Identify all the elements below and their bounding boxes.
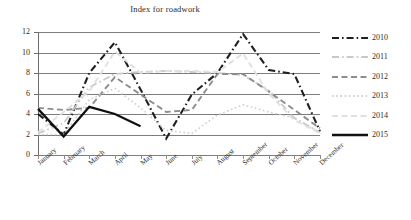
legend-label: 2010 [369,34,388,42]
legend-swatch-2010-icon [331,33,369,43]
legend-swatch-2015-icon [331,130,369,140]
legend-swatch-2012-icon [331,72,369,82]
legend-item-2013[interactable]: 2013 [331,87,409,107]
legend-item-2010[interactable]: 2010 [331,28,409,48]
series-layer [38,32,320,155]
gridline-0 [38,155,320,156]
legend-swatch-2014-icon [331,111,369,121]
legend-item-2014[interactable]: 2014 [331,106,409,126]
y-tick-mark-0 [34,155,38,156]
line-chart: Index for roadwork 024681012 JanuaryFebr… [0,0,411,220]
legend-item-2015[interactable]: 2015 [331,126,409,146]
series-line-2010 [38,34,320,139]
legend-label: 2011 [369,53,388,61]
legend-item-2011[interactable]: 2011 [331,48,409,68]
legend-item-2012[interactable]: 2012 [331,67,409,87]
y-tick-label: 6 [0,90,30,98]
x-tick-mark [320,155,321,159]
series-line-2015 [38,107,141,137]
y-tick-label: 2 [0,131,30,139]
y-tick-label: 12 [0,28,30,36]
chart-legend: 201020112012201320142015 [331,28,409,145]
legend-label: 2014 [369,112,388,120]
legend-label: 2015 [369,131,388,139]
legend-label: 2013 [369,92,388,100]
y-tick-label: 8 [0,69,30,77]
y-tick-label: 10 [0,49,30,57]
legend-swatch-2013-icon [331,91,369,101]
legend-swatch-2011-icon [331,52,369,62]
chart-title: Index for roadwork [0,4,330,14]
legend-label: 2012 [369,73,388,81]
y-tick-label: 4 [0,110,30,118]
x-tick-label: December [318,141,345,167]
y-tick-label: 0 [0,151,30,159]
